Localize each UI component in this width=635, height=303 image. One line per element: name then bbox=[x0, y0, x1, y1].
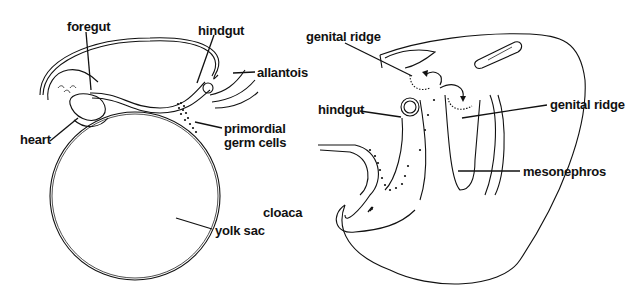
label-allantois: allantois bbox=[257, 66, 308, 79]
label-primordial: primordial bbox=[224, 122, 286, 135]
label-cloaca: cloaca bbox=[263, 206, 302, 219]
label-germ-cells: germ cells bbox=[224, 136, 286, 149]
embryo-diagram bbox=[0, 0, 635, 303]
left-embryo-drawing bbox=[40, 32, 258, 280]
label-heart: heart bbox=[20, 133, 51, 146]
label-mesonephros: mesonephros bbox=[523, 165, 606, 178]
label-hindgut-right: hindgut bbox=[318, 103, 364, 116]
label-genital-ridge-right: genital ridge bbox=[550, 98, 625, 111]
label-genital-ridge-top: genital ridge bbox=[306, 30, 381, 43]
label-yolk-sac: yolk sac bbox=[215, 224, 265, 237]
right-embryo-drawing bbox=[318, 34, 585, 284]
label-foregut: foregut bbox=[67, 20, 110, 33]
label-hindgut-left: hindgut bbox=[198, 24, 244, 37]
